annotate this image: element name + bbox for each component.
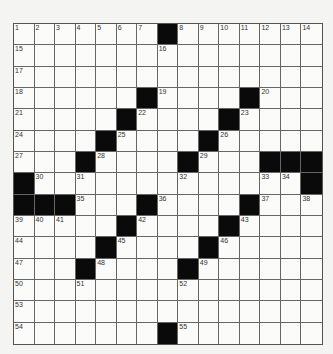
crossword-cell[interactable]: 16 — [158, 45, 179, 66]
crossword-cell[interactable] — [219, 323, 240, 344]
crossword-cell[interactable]: 30 — [35, 173, 56, 194]
crossword-cell[interactable]: 9 — [199, 24, 220, 45]
crossword-cell[interactable] — [137, 131, 158, 152]
crossword-cell[interactable] — [158, 216, 179, 237]
crossword-cell[interactable] — [76, 301, 97, 322]
crossword-cell[interactable] — [76, 67, 97, 88]
crossword-cell[interactable] — [117, 152, 138, 173]
crossword-cell[interactable]: 15 — [14, 45, 35, 66]
crossword-cell[interactable] — [35, 45, 56, 66]
crossword-cell[interactable] — [240, 131, 261, 152]
crossword-cell[interactable]: 2 — [35, 24, 56, 45]
crossword-cell[interactable] — [158, 67, 179, 88]
crossword-cell[interactable] — [158, 301, 179, 322]
crossword-cell[interactable] — [240, 173, 261, 194]
crossword-cell[interactable]: 41 — [55, 216, 76, 237]
crossword-cell[interactable] — [281, 323, 302, 344]
crossword-cell[interactable] — [76, 216, 97, 237]
crossword-cell[interactable]: 47 — [14, 259, 35, 280]
crossword-cell[interactable] — [260, 109, 281, 130]
crossword-cell[interactable]: 33 — [260, 173, 281, 194]
crossword-cell[interactable] — [158, 259, 179, 280]
crossword-cell[interactable] — [96, 323, 117, 344]
crossword-cell[interactable] — [240, 237, 261, 258]
crossword-cell[interactable] — [158, 109, 179, 130]
crossword-cell[interactable] — [96, 109, 117, 130]
crossword-cell[interactable]: 43 — [240, 216, 261, 237]
crossword-cell[interactable] — [55, 131, 76, 152]
crossword-cell[interactable] — [117, 323, 138, 344]
crossword-cell[interactable] — [301, 259, 322, 280]
crossword-cell[interactable]: 4 — [76, 24, 97, 45]
crossword-cell[interactable] — [137, 280, 158, 301]
crossword-cell[interactable] — [281, 67, 302, 88]
crossword-cell[interactable] — [158, 237, 179, 258]
crossword-cell[interactable] — [117, 280, 138, 301]
crossword-cell[interactable]: 12 — [260, 24, 281, 45]
crossword-cell[interactable]: 11 — [240, 24, 261, 45]
crossword-cell[interactable] — [96, 67, 117, 88]
crossword-cell[interactable] — [240, 152, 261, 173]
crossword-cell[interactable] — [199, 67, 220, 88]
crossword-cell[interactable] — [55, 109, 76, 130]
crossword-cell[interactable]: 52 — [178, 280, 199, 301]
crossword-cell[interactable] — [158, 131, 179, 152]
crossword-cell[interactable] — [281, 216, 302, 237]
crossword-cell[interactable] — [219, 45, 240, 66]
crossword-cell[interactable]: 32 — [178, 173, 199, 194]
crossword-cell[interactable]: 53 — [14, 301, 35, 322]
crossword-cell[interactable] — [117, 45, 138, 66]
crossword-cell[interactable] — [35, 152, 56, 173]
crossword-cell[interactable] — [260, 323, 281, 344]
crossword-cell[interactable] — [219, 259, 240, 280]
crossword-cell[interactable] — [260, 301, 281, 322]
crossword-cell[interactable] — [240, 280, 261, 301]
crossword-cell[interactable] — [137, 67, 158, 88]
crossword-cell[interactable] — [117, 259, 138, 280]
crossword-cell[interactable] — [96, 173, 117, 194]
crossword-cell[interactable] — [260, 259, 281, 280]
crossword-cell[interactable] — [219, 301, 240, 322]
crossword-cell[interactable] — [281, 109, 302, 130]
crossword-cell[interactable] — [55, 323, 76, 344]
crossword-cell[interactable] — [117, 301, 138, 322]
crossword-cell[interactable] — [260, 280, 281, 301]
crossword-cell[interactable] — [158, 152, 179, 173]
crossword-cell[interactable] — [301, 237, 322, 258]
crossword-cell[interactable]: 27 — [14, 152, 35, 173]
crossword-cell[interactable] — [240, 45, 261, 66]
crossword-cell[interactable]: 54 — [14, 323, 35, 344]
crossword-cell[interactable] — [137, 45, 158, 66]
crossword-cell[interactable] — [35, 259, 56, 280]
crossword-cell[interactable] — [178, 131, 199, 152]
crossword-cell[interactable] — [281, 45, 302, 66]
crossword-cell[interactable] — [260, 45, 281, 66]
crossword-cell[interactable]: 19 — [158, 88, 179, 109]
crossword-cell[interactable] — [55, 88, 76, 109]
crossword-cell[interactable]: 18 — [14, 88, 35, 109]
crossword-cell[interactable]: 24 — [14, 131, 35, 152]
crossword-cell[interactable] — [281, 280, 302, 301]
crossword-cell[interactable] — [35, 67, 56, 88]
crossword-cell[interactable]: 49 — [199, 259, 220, 280]
crossword-cell[interactable] — [281, 131, 302, 152]
crossword-cell[interactable]: 22 — [137, 109, 158, 130]
crossword-cell[interactable] — [35, 88, 56, 109]
crossword-cell[interactable] — [240, 301, 261, 322]
crossword-cell[interactable] — [301, 301, 322, 322]
crossword-cell[interactable] — [55, 152, 76, 173]
crossword-cell[interactable]: 17 — [14, 67, 35, 88]
crossword-cell[interactable] — [137, 152, 158, 173]
crossword-cell[interactable] — [301, 216, 322, 237]
crossword-cell[interactable]: 7 — [137, 24, 158, 45]
crossword-cell[interactable] — [281, 195, 302, 216]
crossword-cell[interactable] — [178, 195, 199, 216]
crossword-cell[interactable] — [137, 323, 158, 344]
crossword-cell[interactable]: 50 — [14, 280, 35, 301]
crossword-cell[interactable] — [199, 88, 220, 109]
crossword-cell[interactable] — [55, 173, 76, 194]
crossword-cell[interactable] — [178, 301, 199, 322]
crossword-cell[interactable]: 6 — [117, 24, 138, 45]
crossword-cell[interactable]: 8 — [178, 24, 199, 45]
crossword-cell[interactable]: 42 — [137, 216, 158, 237]
